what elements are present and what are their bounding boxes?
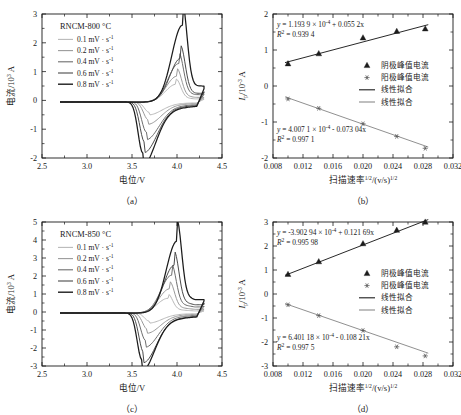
y-tick-label: 2 — [33, 272, 37, 281]
y-tick-label: 0 — [264, 290, 268, 299]
y-tick-label: -1 — [261, 314, 268, 323]
y-tick-label: -1 — [30, 125, 37, 134]
panel-b-svg: 0.0080.0120.0160.0200.0240.0280.032-2-10… — [231, 0, 461, 207]
fit-equation: y = -3.902 94 × 10-4 + 0.121 69x — [276, 227, 374, 237]
x-tick-label: 2.5 — [37, 370, 47, 379]
y-axis-label: 电流/103 A — [5, 273, 16, 314]
x-tick-label: 0.012 — [294, 370, 312, 379]
x-tick-label: 0.024 — [384, 370, 402, 379]
legend-label: 0.4 mV · s-1 — [77, 264, 114, 274]
legend-label: 阳极峰值电流 — [381, 280, 429, 290]
legend-label: 阴极峰值电流 — [381, 60, 429, 70]
legend-label: 0.4 mV · s-1 — [77, 56, 114, 66]
y-tick-label: 1 — [33, 290, 37, 299]
legend-label: 阴极峰值电流 — [381, 268, 429, 278]
x-tick-label: 3.5 — [127, 162, 137, 171]
panel-caption: （c） — [121, 404, 143, 414]
x-tick-label: 0.032 — [444, 370, 461, 379]
y-tick-label: -1 — [30, 326, 37, 335]
legend-label: 线性拟合 — [381, 84, 413, 94]
panel-caption: （d） — [352, 404, 375, 414]
x-tick-label: 3.0 — [82, 162, 92, 171]
x-tick-label: 4.0 — [172, 370, 182, 379]
legend-marker-triangle — [364, 62, 370, 67]
legend-label: 0.2 mV · s-1 — [77, 253, 114, 263]
x-axis-label: 扫描速率1/2/(v/s)1/2 — [329, 382, 398, 393]
y-tick-label: 2 — [264, 242, 268, 251]
panel-title: RNCM-850 °C — [60, 230, 111, 239]
y-tick-label: -3 — [30, 362, 37, 371]
cv-curve — [60, 54, 204, 140]
y-tick-label: 0 — [33, 96, 37, 105]
x-tick-label: 0.008 — [264, 162, 282, 171]
legend-label: 0.6 mV · s-1 — [77, 68, 114, 78]
panel-caption: （a） — [121, 196, 143, 206]
y-tick-label: 0 — [33, 308, 37, 317]
y-axis-label: Ip/10-3 A — [237, 71, 248, 102]
panel-d-svg: 0.0080.0120.0160.0200.0240.0280.032-3-2-… — [231, 208, 461, 415]
y-tick-label: 3 — [33, 254, 37, 263]
legend-label: 0.6 mV · s-1 — [77, 276, 114, 286]
fit-equation: y = 1.193 9 × 10-4 + 0.055 2x — [276, 19, 364, 29]
fit-r2: R2 = 0.997 5 — [276, 342, 315, 352]
legend-label: 0.1 mV · s-1 — [77, 242, 114, 252]
x-tick-label: 0.016 — [324, 162, 342, 171]
legend-label: 线性拟合 — [381, 97, 413, 107]
x-tick-label: 4.5 — [217, 370, 227, 379]
legend-label: 线性拟合 — [381, 305, 413, 315]
y-tick-label: -2 — [30, 344, 37, 353]
legend-label: 0.8 mV · s-1 — [77, 79, 114, 89]
x-tick-label: 4.0 — [172, 162, 182, 171]
data-point-marker — [316, 313, 321, 318]
fit-equation: y = 4.007 1 × 10-4 - 0.073 04x — [276, 124, 366, 134]
panel-b-linear-fit: 0.0080.0120.0160.0200.0240.0280.032-2-10… — [231, 0, 461, 207]
legend-marker-star — [364, 75, 369, 80]
x-tick-label: 0.028 — [414, 162, 432, 171]
x-axis-label: 电位/V — [119, 174, 146, 185]
x-tick-label: 0.020 — [354, 162, 372, 171]
x-tick-label: 0.032 — [444, 162, 461, 171]
data-point-marker — [394, 28, 400, 33]
data-point-marker — [360, 35, 366, 40]
legend-label: 线性拟合 — [381, 292, 413, 302]
fit-equation: y = 6.401 18 × 10-4 - 0.108 21x — [276, 332, 370, 342]
legend-label: 0.1 mV · s-1 — [77, 34, 114, 44]
data-point-marker — [394, 345, 399, 350]
y-axis-label: Ip/10-3 A — [237, 279, 248, 310]
y-tick-label: -2 — [261, 338, 268, 347]
x-tick-label: 0.024 — [384, 162, 402, 171]
panel-a-svg: 2.53.03.54.04.5-2-10123RNCM-800 °C0.1 mV… — [0, 0, 230, 207]
y-tick-label: 4 — [33, 236, 37, 245]
y-tick-label: -3 — [261, 362, 268, 371]
panel-d-linear-fit: 0.0080.0120.0160.0200.0240.0280.032-3-2-… — [231, 208, 461, 415]
x-tick-label: 3.5 — [127, 370, 137, 379]
plot-frame — [42, 14, 222, 158]
y-tick-label: 1 — [264, 266, 268, 275]
x-tick-label: 2.5 — [37, 162, 47, 171]
y-tick-label: 2 — [33, 39, 37, 48]
y-tick-label: -1 — [261, 118, 268, 127]
y-tick-label: 1 — [33, 68, 37, 77]
legend-label: 阳极峰值电流 — [381, 72, 429, 82]
fit-r2: R2 = 0.939 4 — [276, 29, 315, 39]
plot-frame — [42, 222, 222, 366]
y-tick-label: 1 — [264, 46, 268, 55]
figure-container: 2.53.03.54.04.5-2-10123RNCM-800 °C0.1 mV… — [0, 0, 461, 415]
legend-label: 0.8 mV · s-1 — [77, 287, 114, 297]
data-point-marker — [360, 241, 366, 246]
x-tick-label: 4.5 — [217, 162, 227, 171]
y-tick-label: 0 — [264, 82, 268, 91]
x-tick-label: 3.0 — [82, 370, 92, 379]
y-tick-label: -2 — [261, 154, 268, 163]
y-tick-label: 3 — [33, 10, 37, 19]
x-tick-label: 0.020 — [354, 370, 372, 379]
y-tick-label: 2 — [264, 10, 268, 19]
panel-c-cv-curve: 2.53.03.54.04.5-3-2-1012345RNCM-850 °C0.… — [0, 208, 230, 415]
panel-a-cv-curve: 2.53.03.54.04.5-2-10123RNCM-800 °C0.1 mV… — [0, 0, 230, 207]
panel-caption: （b） — [352, 196, 375, 206]
panel-title: RNCM-800 °C — [60, 22, 111, 31]
data-point-marker — [316, 106, 321, 111]
panel-c-svg: 2.53.03.54.04.5-3-2-1012345RNCM-850 °C0.… — [0, 208, 230, 415]
y-tick-label: 3 — [264, 218, 268, 227]
x-tick-label: 0.016 — [324, 370, 342, 379]
